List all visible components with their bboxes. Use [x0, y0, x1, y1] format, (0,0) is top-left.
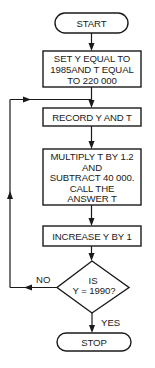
start-label: START [76, 18, 106, 29]
arrow-record-to-multiply [89, 126, 95, 149]
multiply-line-3: SUBTRACT 40 000. [50, 172, 135, 183]
init-line-1: SET Y EQUAL TO [54, 53, 130, 64]
arrow-increase-to-decision [89, 246, 95, 261]
arrow-init-to-record [89, 87, 95, 108]
decision-line-2: Y = 1990? [73, 285, 116, 296]
increase-label: INCREASE Y BY 1 [52, 231, 132, 242]
init-process-box: SET Y EQUAL TO 1985AND T EQUAL TO 220 00… [43, 51, 141, 87]
multiply-line-5: ANSWER T [67, 193, 117, 204]
decision-diamond: IS Y = 1990? [57, 261, 129, 313]
init-line-2: 1985AND T EQUAL [50, 64, 134, 75]
flowchart: START SET Y EQUAL TO 1985AND T EQUAL TO … [0, 0, 155, 368]
record-label: RECORD Y AND T [52, 112, 132, 123]
increase-process-box: INCREASE Y BY 1 [43, 226, 141, 246]
no-label: NO [36, 274, 50, 285]
multiply-line-1: MULTIPLY T BY 1.2 [50, 151, 133, 162]
start-terminal: START [55, 13, 128, 33]
arrow-yes-to-stop [89, 313, 95, 333]
yes-label: YES [101, 317, 120, 328]
stop-terminal: STOP [57, 333, 131, 351]
arrow-start-to-init [89, 33, 95, 51]
stop-label: STOP [81, 337, 107, 348]
multiply-line-4: CALL THE [70, 183, 115, 194]
init-line-3: TO 220 000 [67, 75, 117, 86]
multiply-line-2: AND [82, 162, 102, 173]
arrow-multiply-to-increase [89, 205, 95, 226]
multiply-process-box: MULTIPLY T BY 1.2 AND SUBTRACT 40 000. C… [43, 149, 141, 205]
record-process-box: RECORD Y AND T [43, 108, 141, 126]
